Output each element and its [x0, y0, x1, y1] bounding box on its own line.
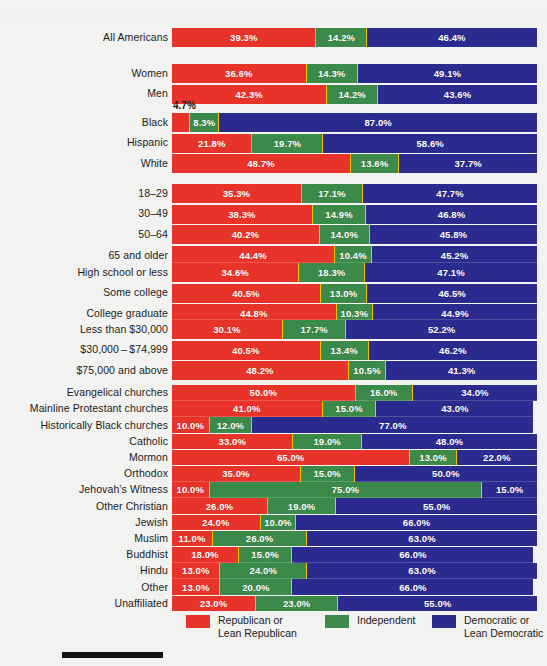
row-label: 18–29 — [138, 187, 168, 199]
segment-independent: 15.0% — [322, 401, 377, 417]
row-label: Muslim — [134, 532, 168, 544]
segment-republican: 26.0% — [172, 498, 267, 514]
segment-independent: 14.2% — [315, 28, 367, 47]
stacked-bar: 39.3%14.2%46.4% — [172, 28, 537, 47]
segment-democratic: 49.1% — [358, 64, 537, 83]
chart-row: Buddhist18.0%15.0%66.0% — [0, 547, 547, 563]
row-label: Jehovah’s Witness — [79, 483, 168, 495]
stacked-bar: 50.0%16.0%34.0% — [172, 385, 537, 401]
segment-democratic: 63.0% — [307, 563, 537, 579]
segment-democratic: 58.6% — [323, 134, 537, 153]
chart-row: All Americans39.3%14.2%46.4% — [0, 28, 547, 47]
segment-independent: 14.2% — [326, 85, 378, 104]
stacked-bar: 10.0%12.0%77.0% — [172, 417, 537, 433]
segment-democratic: 34.0% — [413, 385, 537, 401]
stacked-bar: 21.8%19.7%58.6% — [172, 134, 537, 153]
segment-republican: 21.8% — [172, 134, 251, 153]
chart-row: Hispanic21.8%19.7%58.6% — [0, 134, 547, 153]
stacked-bar: 48.2%10.5%41.3% — [172, 361, 537, 380]
chart-row: Women36.6%14.3%49.1% — [0, 64, 547, 83]
segment-republican: 40.2% — [172, 225, 319, 244]
chart-row: Other Christian26.0%19.0%55.0% — [0, 498, 547, 514]
segment-democratic: 66.0% — [292, 547, 533, 563]
chart-row: 18–2935.3%17.1%47.7% — [0, 184, 547, 203]
segment-democratic: 45.2% — [372, 246, 537, 265]
stacked-bar: 13.0%20.0%66.0% — [172, 579, 537, 595]
footer-rule — [62, 652, 163, 658]
segment-independent: 23.0% — [255, 596, 338, 612]
segment-independent: 13.0% — [409, 450, 456, 466]
row-label: Evangelical churches — [67, 386, 168, 398]
segment-republican: 24.0% — [172, 515, 260, 531]
chart-row: $30,000 – $74,99940.5%13.4%46.2% — [0, 341, 547, 360]
stacked-bar: 65.0%13.0%22.0% — [172, 450, 537, 466]
segment-republican: 40.5% — [172, 341, 320, 360]
segment-republican: 11.0% — [172, 531, 212, 547]
row-label: White — [141, 157, 168, 169]
red-swatch — [186, 615, 210, 628]
segment-republican: 36.6% — [172, 64, 306, 83]
segment-republican: 48.7% — [172, 154, 350, 173]
segment-independent: 24.0% — [219, 563, 307, 579]
row-label: Hispanic — [127, 136, 168, 148]
segment-independent: 19.0% — [267, 498, 336, 514]
blue-swatch — [432, 615, 456, 628]
segment-democratic: 55.0% — [336, 498, 537, 514]
segment-independent: 10.0% — [260, 515, 297, 531]
segment-democratic: 43.6% — [378, 85, 537, 104]
segment-independent: 17.1% — [301, 184, 363, 203]
row-label: Catholic — [129, 435, 168, 447]
stacked-bar: 18.0%15.0%66.0% — [172, 547, 537, 563]
stacked-bar: 35.0%15.0%50.0% — [172, 466, 537, 482]
legend-label-line2: Lean Democratic — [464, 627, 543, 640]
segment-republican: 48.2% — [172, 361, 348, 380]
stacked-bar: 33.0%19.0%48.0% — [172, 434, 537, 450]
row-label: Women — [132, 67, 169, 79]
segment-democratic: 77.0% — [252, 417, 533, 433]
chart-row: Less than $30,00030.1%17.7%52.2% — [0, 320, 547, 339]
segment-independent: 13.0% — [320, 284, 367, 303]
row-label: 65 and older — [108, 249, 168, 261]
chart-row: 50–6440.2%14.0%45.8% — [0, 225, 547, 244]
segment-democratic: 46.2% — [369, 341, 537, 360]
row-label: Men — [147, 87, 168, 99]
segment-democratic: 46.5% — [367, 284, 537, 303]
segment-democratic: 46.4% — [367, 28, 536, 47]
segment-democratic: 55.0% — [338, 596, 537, 612]
legend-label-line1: Democratic or — [464, 614, 543, 627]
stacked-bar: 40.5%13.0%46.5% — [172, 284, 537, 303]
segment-democratic: 47.7% — [363, 184, 537, 203]
segment-democratic: 48.0% — [362, 434, 537, 450]
chart-row: 65 and older44.4%10.4%45.2% — [0, 246, 547, 265]
segment-republican: 38.3% — [172, 205, 312, 224]
segment-independent: 15.0% — [300, 466, 355, 482]
segment-independent: 18.3% — [298, 263, 365, 282]
stacked-bar: 10.0%75.0%15.0% — [172, 482, 537, 498]
chart-row: Mainline Protestant churches41.0%15.0%43… — [0, 401, 547, 417]
stacked-bar: 13.0%24.0%63.0% — [172, 563, 537, 579]
stacked-bar: 41.0%15.0%43.0% — [172, 401, 537, 417]
stacked-bar: 40.5%13.4%46.2% — [172, 341, 537, 360]
segment-independent: 19.7% — [251, 134, 323, 153]
row-label: Mormon — [129, 451, 168, 463]
segment-independent: 16.0% — [355, 385, 413, 401]
segment-democratic: 41.3% — [386, 361, 537, 380]
segment-independent: 13.4% — [320, 341, 369, 360]
legend-label: Republican orLean Republican — [218, 614, 297, 639]
stacked-bar: 34.6%18.3%47.1% — [172, 263, 537, 282]
green-swatch — [325, 615, 349, 628]
segment-republican: 40.5% — [172, 284, 320, 303]
segment-democratic: 66.0% — [292, 579, 533, 595]
chart-row: Some college40.5%13.0%46.5% — [0, 284, 547, 303]
segment-republican: 44.4% — [172, 246, 334, 265]
segment-republican: 13.0% — [172, 579, 219, 595]
row-label: 50–64 — [138, 228, 168, 240]
chart-row: Catholic33.0%19.0%48.0% — [0, 434, 547, 450]
stacked-bar: 48.7%13.6%37.7% — [172, 154, 537, 173]
chart-row: Black4.7%8.3%87.0% — [0, 113, 547, 132]
segment-republican: 4.7% — [172, 113, 189, 132]
chart-row: Men42.3%14.2%43.6% — [0, 85, 547, 104]
legend-label-line2: Lean Republican — [218, 627, 297, 640]
segment-republican: 35.3% — [172, 184, 301, 203]
segment-democratic: 22.0% — [457, 450, 537, 466]
